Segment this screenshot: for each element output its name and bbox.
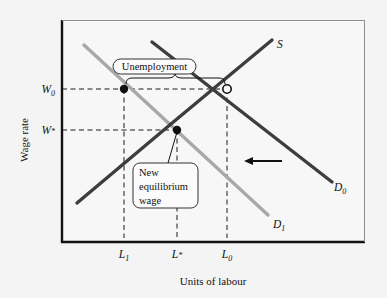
y-axis-title: Wage rate <box>18 118 30 162</box>
new-equilibrium-line-3: wage <box>139 195 161 206</box>
x-axis-title: Units of labour <box>180 275 247 287</box>
original-equilibrium-point <box>223 85 231 93</box>
unemployment-supply-point <box>120 85 128 93</box>
new-equilibrium-line-2: equilibrium <box>139 181 188 192</box>
supply-curve-label: S <box>277 38 283 50</box>
unemployment-callout-label: Unemployment <box>122 61 187 72</box>
plot-panel-background <box>61 20 365 243</box>
unemployment-callout: Unemployment <box>113 59 196 74</box>
labour-market-diagram: Unemployment New equilibrium wage S D0 D… <box>0 0 387 298</box>
new-equilibrium-line-1: New <box>139 167 159 178</box>
